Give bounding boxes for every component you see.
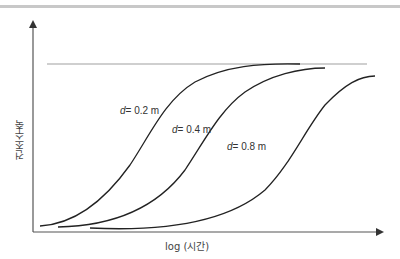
y-axis-label: 건조수축 [12, 120, 24, 160]
label-d-0.8: d= 0.8 m [227, 141, 266, 152]
label-value: = 0.8 m [233, 141, 267, 152]
label-value: = 0.2 m [126, 105, 160, 116]
curve-d-0.4 [58, 68, 325, 227]
label-value: = 0.4 m [178, 124, 212, 135]
x-axis-label: log (시간) [165, 238, 209, 253]
curve-d-0.8 [90, 76, 375, 229]
label-d-0.2: d= 0.2 m [120, 105, 159, 116]
label-d-0.4: d= 0.4 m [172, 124, 211, 135]
